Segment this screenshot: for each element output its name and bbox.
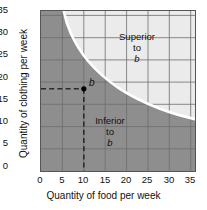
- y-tick-0: 0: [0, 161, 8, 171]
- chart-figure: Superior to b Inferior to b b 35 30 25 2…: [0, 0, 207, 210]
- superior-region-label: Superior to b: [109, 31, 165, 64]
- plot-area: Superior to b Inferior to b b: [40, 10, 196, 172]
- superior-label-line2: to: [109, 42, 165, 53]
- x-tick-0: 0: [29, 175, 51, 185]
- y-tick-5: 5: [0, 138, 8, 148]
- x-tick-20: 20: [115, 175, 137, 185]
- point-b-label: b: [89, 77, 95, 88]
- x-tick-25: 25: [136, 175, 158, 185]
- inferior-label-line3: b: [85, 137, 135, 148]
- y-tick-15: 15: [0, 94, 8, 104]
- superior-label-line3: b: [109, 53, 165, 64]
- x-tick-10: 10: [72, 175, 94, 185]
- x-tick-35: 35: [179, 175, 201, 185]
- inferior-label-line2: to: [85, 126, 135, 137]
- y-axis-title: Quantity of clothing per week: [18, 9, 29, 179]
- y-tick-20: 20: [0, 72, 8, 82]
- y-tick-30: 30: [0, 27, 8, 37]
- x-tick-30: 30: [158, 175, 180, 185]
- x-tick-5: 5: [51, 175, 73, 185]
- y-tick-25: 25: [0, 49, 8, 59]
- y-tick-10: 10: [0, 116, 8, 126]
- point-b-marker: [81, 86, 86, 91]
- y-tick-35: 35: [0, 5, 8, 15]
- x-tick-15: 15: [94, 175, 116, 185]
- superior-label-line1: Superior: [109, 31, 165, 42]
- x-axis-title: Quantity of food per week: [0, 190, 207, 201]
- inferior-region-label: Inferior to b: [85, 115, 135, 148]
- inferior-label-line1: Inferior: [85, 115, 135, 126]
